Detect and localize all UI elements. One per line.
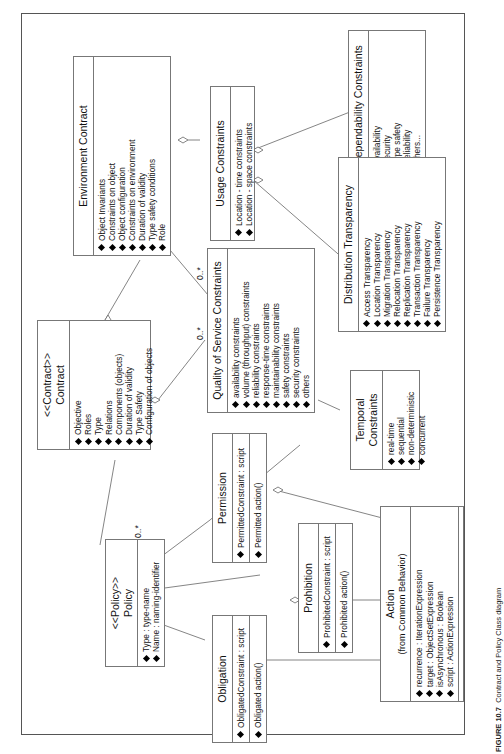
class-name: Prohibition [299,524,319,652]
attribute: availability constraints [231,253,241,408]
attribute: recurrence : IterationExpression [414,511,424,697]
figure-caption: FIGURE 10.7 Contract and Policy Class di… [494,588,503,752]
attribute: Location - time constraints [234,91,244,236]
attribute: Components (objects) [114,325,124,445]
attribute: ProhibitedConstraint : script [322,528,332,648]
class-name: Policy [122,544,135,662]
attribute: Duration of validity [137,61,147,251]
attribute: Constraints on environment [127,61,137,251]
attribute: Role [157,61,167,251]
attribute: concurrent [417,375,427,465]
class-prohibition: Prohibition ProhibitedConstraint : scrip… [298,523,353,653]
attribute: Access Transparency [362,162,372,327]
operation: Prohibited action() [339,528,349,648]
attribute: Objective [73,325,83,445]
attribute: script : ActionExpression [445,511,455,697]
attribute: sequential [396,375,406,465]
stereotype: <<Policy>> [109,544,122,662]
attribute: safety constraints [281,253,291,408]
operation: Obligated action() [253,620,263,738]
multiplicity-policy-contract: 0..* [133,525,143,538]
class-distribution-transparency: Distribution Transparency Access Transpa… [338,157,446,332]
class-name: Temporal Constraints [351,371,383,469]
stereotype: <<Contract>> [41,325,54,445]
attribute: Security [382,35,392,175]
attribute: Relations [104,325,114,445]
attribute: Type safety conditions [147,61,157,251]
class-contract: <<Contract>> Contract Objective Roles Ty… [37,320,151,450]
class-name: Contract [54,325,67,445]
attribute: ObligatedConstraint : script [236,620,246,738]
attribute: Migration Transparency [382,162,392,327]
attribute: Type safety [392,35,402,175]
class-name: Permission [213,434,233,562]
class-obligation: Obligation ObligatedConstraint : script … [212,615,267,743]
attribute: isAsynchronous : Boolean [435,511,445,697]
class-subtitle: (from Common Behavior) [397,511,408,697]
class-name: Obligation [213,616,233,742]
attribute: security constraints [291,253,301,408]
attribute: Location - space constraints [244,91,254,236]
attribute: Object configuration [117,61,127,251]
attribute: Type Safety [134,325,144,445]
class-header: <<Contract>> Contract [38,321,70,449]
multiplicity-contract-qos: 0..* [195,327,205,340]
attribute: Failure Transparency [422,162,432,327]
attribute: real-time [386,375,396,465]
class-usage-constraints: Usage Constraints Location - time constr… [210,86,255,241]
attribute: response-time constraints [261,253,271,408]
attribute: PermittedConstraint : script [236,438,246,558]
class-policy: <<Policy>> Policy Type : type-name Name … [105,539,165,667]
class-environment-contract: Environment Contract Object Invariants C… [73,56,171,256]
attribute: reliability constraints [251,253,261,408]
attribute: Persistence Transparency [432,162,442,327]
class-name: Environment Contract [74,57,94,255]
class-permission: Permission PermittedConstraint : script … [212,433,267,563]
class-temporal-constraints: Temporal Constraints real-time sequentia… [350,370,420,470]
class-name: Usage Constraints [211,87,231,240]
attribute: Object Invariants [97,61,107,251]
attribute: others... [412,35,422,175]
attribute: Location Transparency [372,162,382,327]
attribute: Constraints on object [107,61,117,251]
multiplicity-env-qos: 0..* [195,267,205,280]
attribute: Duration of validity [124,325,134,445]
attribute: non-deterministic [406,375,416,465]
attribute: target : ObjectSetExpression [425,511,435,697]
attribute: Roles [83,325,93,445]
attribute: volume (throughput) constraints [241,253,251,408]
attribute: Name : naming-identifier [151,544,161,662]
attribute: Type : type-name [141,544,151,662]
attribute: Replication Transparency [402,162,412,327]
class-name: Distribution Transparency [339,158,359,331]
class-action: Action (from Common Behavior) recurrence… [380,506,464,702]
class-name: Action [384,511,397,697]
attribute: Relocation Transparency [392,162,402,327]
attribute: maintainability constraints [271,253,281,408]
attribute: Reliability [402,35,412,175]
attribute: others [301,253,311,408]
class-header: <<Policy>> Policy [106,540,138,666]
class-header: Action (from Common Behavior) [381,507,411,701]
attribute: Type [93,325,103,445]
operation: Permitted action() [253,438,263,558]
attribute: Transaction Transparency [412,162,422,327]
class-name: Quality of Service Constraints [208,249,228,412]
attribute: Availability [372,35,382,175]
class-qos-constraints: Quality of Service Constraints availabil… [207,248,315,413]
attribute: Configuration of objects [144,325,154,445]
